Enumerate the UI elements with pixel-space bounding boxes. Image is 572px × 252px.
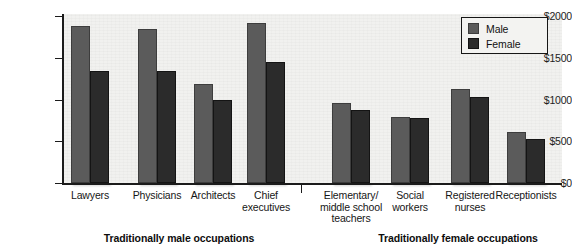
- bar-face: [410, 118, 429, 183]
- legend-swatch-female-icon: [468, 38, 479, 49]
- category-label-line: Receptionists: [483, 190, 569, 202]
- bar-face: [90, 71, 109, 183]
- bar-male-3: [247, 23, 266, 183]
- bar-male-4: [332, 103, 351, 183]
- bar-face: [332, 103, 351, 183]
- legend-item-male: Male: [468, 22, 508, 35]
- bar-female-6: [470, 97, 489, 183]
- legend-label-male: Male: [486, 23, 508, 35]
- bar-female-2: [213, 100, 232, 184]
- bar-face: [451, 89, 470, 183]
- legend: Male Female: [461, 17, 548, 54]
- category-label-7: Receptionists: [483, 190, 569, 202]
- bar-female-4: [351, 110, 370, 183]
- bar-female-3: [266, 62, 285, 183]
- bar-face: [194, 84, 213, 183]
- group-caption-0: Traditionally male occupations: [84, 232, 274, 244]
- bar-female-7: [526, 139, 545, 183]
- category-label-3: Chiefexecutives: [223, 190, 309, 213]
- bar-face: [138, 29, 157, 183]
- category-label-line: executives: [223, 202, 309, 214]
- bar-face: [247, 23, 266, 183]
- bar-male-5: [391, 117, 410, 183]
- bar-female-1: [157, 71, 176, 183]
- bar-face: [266, 62, 285, 183]
- category-label-line: nurses: [427, 202, 513, 214]
- bar-face: [157, 71, 176, 183]
- bar-face: [213, 100, 232, 184]
- category-label-line: Chief: [223, 190, 309, 202]
- bar-male-1: [138, 29, 157, 183]
- group-caption-1: Traditionally female occupations: [353, 232, 563, 244]
- bar-male-7: [507, 132, 526, 183]
- bar-face: [470, 97, 489, 183]
- bar-face: [391, 117, 410, 183]
- bar-face: [71, 26, 90, 183]
- category-label-line: teachers: [308, 213, 394, 225]
- bar-male-2: [194, 84, 213, 183]
- bar-female-0: [90, 71, 109, 183]
- bar-male-0: [71, 26, 90, 183]
- bar-male-6: [451, 89, 470, 183]
- bar-face: [351, 110, 370, 183]
- legend-item-female: Female: [468, 37, 520, 50]
- legend-swatch-male-icon: [468, 23, 479, 34]
- bar-face: [507, 132, 526, 183]
- bar-chart: $2000$1500$1000$500$0 LawyersPhysiciansA…: [0, 0, 572, 252]
- bar-face: [526, 139, 545, 183]
- bar-female-5: [410, 118, 429, 183]
- legend-label-female: Female: [486, 38, 520, 50]
